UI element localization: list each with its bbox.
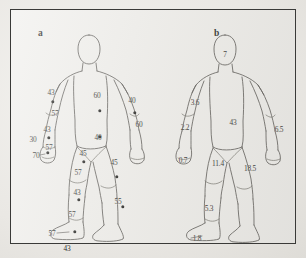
figure-root: a <box>0 0 306 258</box>
panel-b-leader-lines <box>161 10 297 245</box>
hand-leader <box>40 154 45 155</box>
foot-leader <box>57 232 69 233</box>
panel-a-leader-lines <box>11 10 161 245</box>
panel-b: b <box>161 10 297 245</box>
figure-plate: a <box>10 9 296 244</box>
panel-a: a <box>11 10 161 245</box>
foot-leader <box>191 236 202 238</box>
